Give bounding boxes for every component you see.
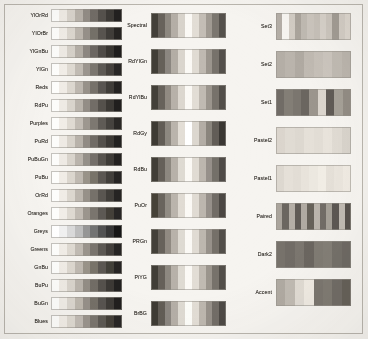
colormap-segment xyxy=(75,153,83,166)
colormap-segment xyxy=(67,45,75,58)
colormap-segment xyxy=(90,117,98,130)
colormap-segment xyxy=(206,121,213,146)
colormap-swatch-bar xyxy=(151,301,226,326)
colormap-swatch-bar xyxy=(151,193,226,218)
colormap-segment xyxy=(90,171,98,184)
colormap-segment xyxy=(295,279,304,306)
colormap-segment xyxy=(192,157,199,182)
colormap-segment xyxy=(206,85,213,110)
colormap-segment xyxy=(59,279,67,292)
colormap-segment xyxy=(151,157,158,182)
colormap-segment xyxy=(295,241,304,268)
colormap-label: Accent xyxy=(224,290,276,295)
colormap-segment xyxy=(332,127,341,154)
figure-frame: YlOrRdYlOrBrYlGnBuYlGnRedsRdPuPurplesPuR… xyxy=(4,4,363,334)
colormap-segment xyxy=(171,85,178,110)
colormap-segment xyxy=(192,49,199,74)
colormap-segment xyxy=(185,157,192,182)
colormap-segment xyxy=(83,9,91,22)
colormap-row: RdGy xyxy=(99,121,226,146)
colormap-segment xyxy=(304,241,313,268)
colormap-segment xyxy=(59,243,67,256)
colormap-segment xyxy=(59,45,67,58)
colormap-row: Set3 xyxy=(224,13,351,40)
colormap-segment xyxy=(75,243,83,256)
colormap-segment xyxy=(75,297,83,310)
colormap-swatch-bar xyxy=(151,49,226,74)
colormap-segment xyxy=(304,51,313,78)
colormap-segment xyxy=(59,81,67,94)
colormap-segment xyxy=(185,193,192,218)
colormap-label: RdYlGn xyxy=(99,59,151,64)
colormap-label: Spectral xyxy=(99,23,151,28)
colormap-segment xyxy=(185,85,192,110)
colormap-segment xyxy=(165,13,172,38)
colormap-segment xyxy=(51,297,59,310)
colormap-segment xyxy=(334,165,342,192)
colormap-segment xyxy=(295,51,304,78)
colormap-segment xyxy=(67,81,75,94)
colormap-segment xyxy=(212,49,219,74)
colormap-segment xyxy=(67,279,75,292)
colormap-segment xyxy=(284,165,292,192)
colormap-label: Blues xyxy=(4,319,51,324)
colormap-segment xyxy=(83,207,91,220)
colormap-segment xyxy=(206,229,213,254)
colormap-segment xyxy=(83,27,91,40)
colormap-segment xyxy=(192,229,199,254)
colormap-segment xyxy=(75,279,83,292)
colormap-row: RdYlGn xyxy=(99,49,226,74)
colormap-segment xyxy=(75,99,83,112)
colormap-segment xyxy=(342,279,351,306)
colormap-segment xyxy=(171,121,178,146)
colormap-segment xyxy=(284,89,292,116)
colormap-segment xyxy=(192,13,199,38)
colormap-segment xyxy=(151,265,158,290)
colormap-segment xyxy=(332,279,341,306)
colormap-segment xyxy=(276,165,284,192)
colormap-segment xyxy=(158,49,165,74)
colormap-segment xyxy=(83,99,91,112)
colormap-segment xyxy=(178,193,185,218)
colormap-segment xyxy=(326,89,334,116)
colormap-segment xyxy=(151,13,158,38)
colormap-label: BuGn xyxy=(4,301,51,306)
colormap-segment xyxy=(199,193,206,218)
colormap-label: PRGn xyxy=(99,239,151,244)
colormap-segment xyxy=(67,207,75,220)
colormap-segment xyxy=(83,153,91,166)
colormap-segment xyxy=(51,225,59,238)
colormap-swatch-bar xyxy=(151,157,226,182)
colormap-segment xyxy=(323,279,332,306)
colormap-segment xyxy=(83,243,91,256)
colormap-segment xyxy=(51,63,59,76)
colormap-segment xyxy=(67,153,75,166)
colormap-segment xyxy=(83,171,91,184)
colormap-segment xyxy=(51,99,59,112)
colormap-segment xyxy=(304,127,313,154)
colormap-segment xyxy=(178,157,185,182)
colormap-segment xyxy=(276,241,285,268)
colormap-label: RdPu xyxy=(4,103,51,108)
colormap-label: YlGn xyxy=(4,67,51,72)
colormap-segment xyxy=(83,135,91,148)
colormap-segment xyxy=(212,13,219,38)
colormap-segment xyxy=(83,63,91,76)
colormap-segment xyxy=(67,315,75,328)
colormap-segment xyxy=(75,189,83,202)
colormap-segment xyxy=(185,229,192,254)
colormap-segment xyxy=(192,85,199,110)
colormap-segment xyxy=(309,165,317,192)
colormap-segment xyxy=(343,89,351,116)
colormap-segment xyxy=(75,81,83,94)
colormap-segment xyxy=(212,301,219,326)
colormap-segment xyxy=(90,27,98,40)
colormap-segment xyxy=(326,165,334,192)
colormap-segment xyxy=(90,243,98,256)
colormap-segment xyxy=(51,45,59,58)
colormap-swatch-bar xyxy=(151,265,226,290)
colormap-swatch-bar xyxy=(276,13,351,40)
colormap-segment xyxy=(151,121,158,146)
colormap-segment xyxy=(323,241,332,268)
colormap-label: RdBu xyxy=(99,167,151,172)
